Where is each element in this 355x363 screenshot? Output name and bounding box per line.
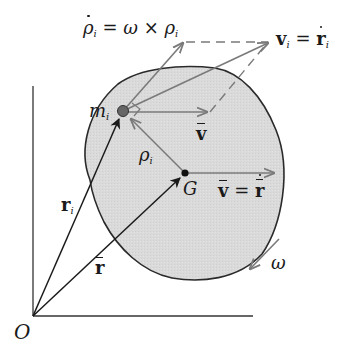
center-of-mass-G: [181, 169, 188, 176]
label-omega: ω: [271, 254, 286, 272]
m-i-symbol: m: [89, 100, 106, 121]
label-rho-i: ρi: [139, 146, 153, 166]
rho-dot-symbol: ρ: [83, 19, 94, 37]
r-i-sub: i: [70, 205, 73, 216]
v-i-symbol: v: [276, 28, 286, 49]
origin-symbol: O: [14, 320, 30, 344]
diagram-canvas: ρi = ω × ρi vi = ri mi v ρi G v = r ri r…: [0, 0, 355, 363]
label-origin: O: [14, 322, 30, 342]
rho-dot-rest: = ω × ρ: [97, 17, 175, 38]
label-G: G: [183, 180, 197, 198]
label-r-bar: r: [95, 259, 104, 277]
label-rho-dot-eq: ρi = ω × ρi: [83, 19, 178, 39]
v-bar-symbol: v: [196, 125, 206, 143]
label-v-bar-upper: v: [196, 125, 206, 143]
r-bar-symbol: r: [95, 259, 104, 277]
v-i-equals: =: [290, 28, 317, 49]
r-i-dot-sub: i: [326, 39, 329, 50]
G-symbol: G: [183, 178, 197, 199]
rho-dot-rest-sub: i: [175, 28, 178, 39]
particle-mi: [118, 106, 129, 117]
label-v-bar-eq: v = r: [218, 182, 264, 200]
label-v-i-eq: vi = ri: [276, 30, 329, 50]
v-bar-eq-equals: =: [228, 180, 255, 201]
omega-symbol: ω: [271, 252, 286, 273]
m-i-sub: i: [106, 111, 109, 122]
diagram-svg: [0, 0, 355, 363]
r-bar-dot-symbol: r: [255, 182, 264, 200]
rho-i-symbol: ρ: [139, 144, 150, 165]
v-bar-eq-lhs: v: [218, 182, 228, 200]
label-m-i: mi: [89, 102, 109, 122]
rho-i-sub: i: [150, 155, 153, 166]
r-i-dot-symbol: r: [316, 30, 325, 48]
label-r-i: ri: [61, 196, 74, 216]
